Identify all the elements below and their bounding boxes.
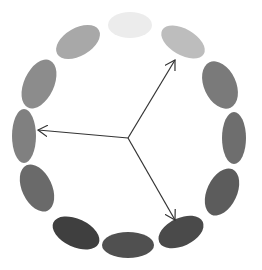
arrow-left [38, 130, 128, 138]
ellipse-segment-7 [102, 232, 154, 258]
arrow-upper-right [128, 60, 175, 138]
ellipse-segment-9 [13, 159, 61, 217]
color-ring-diagram [0, 0, 262, 270]
ellipse-segment-5 [198, 163, 246, 221]
ellipse-segment-6 [153, 209, 208, 255]
diagram-canvas [0, 0, 262, 270]
ellipse-segment-8 [47, 210, 104, 257]
ellipse-segment-4 [222, 112, 246, 164]
arrow-lower-right [128, 138, 175, 220]
arrow-group [38, 60, 175, 220]
ellipse-ring [12, 12, 246, 258]
ellipse-segment-2 [156, 19, 211, 66]
ellipse-segment-10 [12, 109, 36, 163]
ellipse-segment-3 [195, 56, 245, 115]
ellipse-segment-12 [50, 18, 106, 66]
ellipse-segment-11 [14, 54, 63, 114]
ellipse-segment-1 [108, 12, 152, 38]
